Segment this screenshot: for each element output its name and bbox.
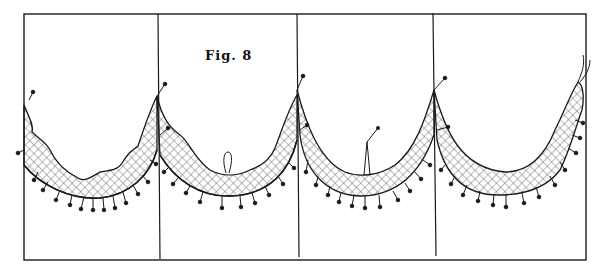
scallop-1 <box>24 96 157 198</box>
figure-caption: Fig. 8 <box>205 48 252 63</box>
lace-pattern-diagram <box>0 0 606 273</box>
scallop-4 <box>434 55 590 195</box>
scallop-2 <box>157 95 297 196</box>
